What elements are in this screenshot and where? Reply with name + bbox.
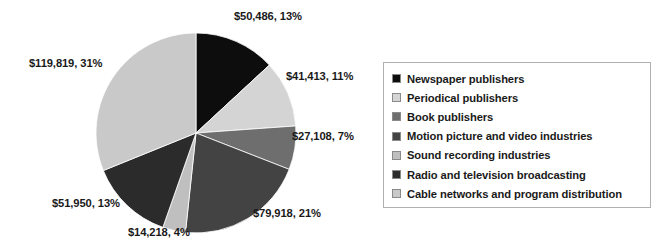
legend-swatch-icon [392, 132, 401, 141]
legend-item: Periodical publishers [392, 88, 642, 107]
legend-item-label: Motion picture and video industries [407, 130, 592, 142]
pie-slices [96, 33, 296, 233]
slice-label-periodical: $41,413, 11% [286, 70, 353, 82]
legend-swatch-icon [392, 170, 401, 179]
legend-item: Book publishers [392, 107, 642, 126]
legend-item-label: Radio and television broadcasting [407, 169, 586, 181]
legend-item: Sound recording industries [392, 146, 642, 165]
slice-label-newspaper: $50,486, 13% [234, 10, 302, 22]
legend-swatch-icon [392, 112, 401, 121]
legend-swatch-icon [392, 189, 401, 198]
legend-item-label: Book publishers [407, 111, 493, 123]
legend-item-label: Sound recording industries [407, 149, 550, 161]
slice-label-radio-tv: $51,950, 13% [52, 197, 120, 209]
legend-item-label: Cable networks and program distribution [407, 188, 622, 200]
legend-item: Radio and television broadcasting [392, 165, 642, 184]
pie-chart-graphic [0, 0, 400, 249]
legend-swatch-icon [392, 151, 401, 160]
pie-chart-figure: $50,486, 13% $41,413, 11% $27,108, 7% $7… [0, 0, 657, 249]
legend-item-label: Newspaper publishers [407, 73, 524, 85]
legend: Newspaper publishersPeriodical publisher… [383, 62, 651, 208]
slice-label-cable: $119,819, 31% [29, 57, 102, 69]
slice-label-motion-picture: $79,918, 21% [253, 207, 321, 219]
slice-label-sound-recording: $14,218, 4% [128, 226, 190, 238]
legend-item-label: Periodical publishers [407, 92, 518, 104]
slice-label-book: $27,108, 7% [292, 130, 354, 142]
legend-swatch-icon [392, 93, 401, 102]
legend-item: Newspaper publishers [392, 69, 642, 88]
legend-swatch-icon [392, 74, 401, 83]
legend-item: Cable networks and program distribution [392, 184, 642, 203]
legend-item: Motion picture and video industries [392, 127, 642, 146]
